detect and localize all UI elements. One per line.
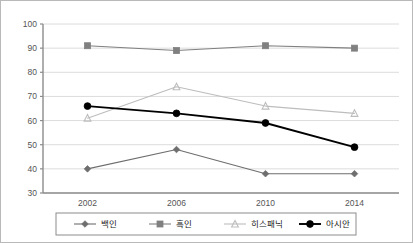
legend-label: 흑인 xyxy=(176,219,192,229)
data-point xyxy=(84,103,91,110)
x-axis-labels: 2002200620102014 xyxy=(78,198,364,208)
data-point xyxy=(262,170,269,177)
series-line xyxy=(88,106,355,147)
legend-marker xyxy=(307,221,314,228)
data-point xyxy=(351,170,358,177)
y-axis-labels: 10090807060504030 xyxy=(23,19,37,198)
data-point xyxy=(173,146,180,153)
y-tick-label: 100 xyxy=(23,19,37,29)
legend: 백인흑인히스패닉아시안 xyxy=(56,213,356,235)
series-line xyxy=(88,87,355,118)
y-tick-label: 60 xyxy=(28,116,38,126)
data-point xyxy=(351,144,358,151)
data-point xyxy=(85,43,91,49)
y-tick-label: 70 xyxy=(28,91,38,101)
series-line xyxy=(88,150,355,174)
data-point xyxy=(174,48,180,54)
y-tick-label: 90 xyxy=(28,43,38,53)
x-tick-label: 2014 xyxy=(345,198,364,208)
legend-label: 히스패닉 xyxy=(251,219,283,229)
x-tick-label: 2002 xyxy=(78,198,97,208)
series-3 xyxy=(84,83,358,121)
chart-canvas: 100908070605040302002200620102014백인흑인히스패… xyxy=(1,1,413,243)
legend-marker xyxy=(157,221,163,227)
x-tick-label: 2006 xyxy=(167,198,186,208)
y-tick-label: 50 xyxy=(28,140,38,150)
gridlines xyxy=(43,24,399,193)
data-point xyxy=(352,45,358,51)
data-point xyxy=(263,43,269,49)
x-tick-label: 2010 xyxy=(256,198,275,208)
y-tick-label: 30 xyxy=(28,188,38,198)
y-tick-label: 40 xyxy=(28,164,38,174)
legend-label: 아시안 xyxy=(326,219,350,229)
series-1 xyxy=(84,146,358,177)
data-point xyxy=(173,110,180,117)
data-point xyxy=(262,120,269,127)
line-chart: 100908070605040302002200620102014백인흑인히스패… xyxy=(0,0,413,243)
y-tick-label: 80 xyxy=(28,67,38,77)
data-point xyxy=(84,166,91,173)
legend-label: 백인 xyxy=(101,219,117,229)
